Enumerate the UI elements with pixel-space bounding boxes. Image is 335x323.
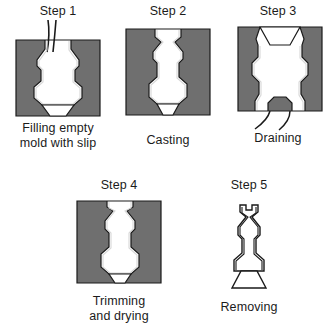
mold-filled-with-slip-icon [118, 27, 218, 119]
step-panel-1: Step 1 Filling empty mold with slip [2, 4, 114, 150]
step-4-caption-line-1: Trimming [58, 294, 180, 309]
step-2-illustration [116, 27, 220, 127]
step-1-caption: Filling empty mold with slip [2, 121, 114, 150]
step-3-caption-line-1: Draining [222, 131, 334, 146]
step-5-title: Step 5 [190, 178, 308, 193]
step-4-illustration [58, 199, 180, 289]
mold-inverted-draining-icon [224, 19, 332, 131]
step-panel-2: Step 2 Casting [116, 4, 220, 148]
step-panel-3: Step 3 Draining [222, 4, 334, 146]
step-4-caption: Trimming and drying [58, 294, 180, 323]
step-1-caption-line-1: Filling empty [2, 121, 114, 136]
step-panel-4: Step 4 Trimming and drying [58, 178, 180, 323]
step-2-caption-line-1: Casting [116, 133, 220, 148]
step-5-caption: Removing [190, 300, 308, 315]
step-4-title: Step 4 [58, 178, 180, 193]
finished-hollow-casting-icon [209, 201, 289, 291]
step-panel-5: Step 5 Removing [190, 178, 308, 315]
step-2-title: Step 2 [116, 4, 220, 19]
step-3-caption: Draining [222, 131, 334, 146]
step-4-caption-line-2: and drying [58, 309, 180, 323]
step-5-caption-line-1: Removing [190, 300, 308, 315]
step-2-caption: Casting [116, 133, 220, 148]
step-5-illustration [190, 201, 308, 293]
mold-empty-with-pouring-slip-icon [4, 19, 112, 119]
mold-with-trimmed-casting-icon [67, 199, 171, 287]
step-1-illustration [2, 19, 114, 119]
step-3-illustration [222, 19, 334, 131]
step-3-title: Step 3 [222, 4, 334, 19]
step-1-caption-line-2: mold with slip [2, 136, 114, 151]
step-1-title: Step 1 [2, 4, 114, 19]
